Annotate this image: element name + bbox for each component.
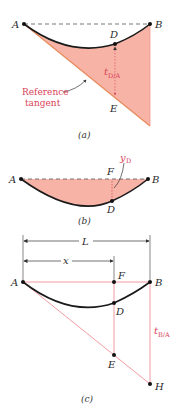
point-a <box>19 177 23 181</box>
label-x: x <box>63 255 69 266</box>
label-d: D <box>115 306 124 317</box>
point-b <box>148 22 152 26</box>
point-d <box>110 199 114 203</box>
point-a <box>22 22 26 26</box>
annotation-tangent: tangent <box>25 98 61 108</box>
point-b <box>148 280 152 284</box>
elastic-curve <box>23 282 150 307</box>
label-y-subscript: D <box>126 157 131 165</box>
label-b: B <box>154 277 162 288</box>
label-b: B <box>151 174 159 185</box>
label-a: A <box>11 19 19 30</box>
figure-c: L x A F B D E H t B/A (c) <box>10 235 170 404</box>
point-f <box>112 280 116 284</box>
label-t-subscript: B/A <box>158 331 170 339</box>
label-f: F <box>106 166 115 177</box>
point-d <box>112 301 116 305</box>
label-e: E <box>109 103 118 114</box>
point-h <box>148 382 152 386</box>
label-y: y <box>119 152 126 163</box>
label-a: A <box>8 174 16 185</box>
figure-a: A B D E t D/A Reference tangent (a) <box>11 19 162 140</box>
label-t-subscript: D/A <box>108 72 120 80</box>
caption-c: (c) <box>81 394 94 404</box>
annotation-reference: Reference <box>22 87 69 97</box>
beam-deflection-figure: A B D E t D/A Reference tangent (a) A B … <box>0 0 193 413</box>
point-b <box>146 177 150 181</box>
label-h: H <box>154 381 164 392</box>
label-b: B <box>154 19 162 30</box>
point-a <box>21 280 25 284</box>
point-e <box>112 353 116 357</box>
label-f: F <box>117 270 126 281</box>
label-e: E <box>107 359 116 370</box>
caption-b: (b) <box>78 216 91 226</box>
label-d: D <box>106 204 115 215</box>
label-d: D <box>109 29 118 40</box>
point-d <box>113 42 117 46</box>
figure-b: A B F D y D (b) <box>8 152 159 226</box>
label-l: L <box>81 236 89 247</box>
tangent-ah <box>23 282 150 384</box>
label-a: A <box>10 277 18 288</box>
caption-a: (a) <box>78 130 91 140</box>
